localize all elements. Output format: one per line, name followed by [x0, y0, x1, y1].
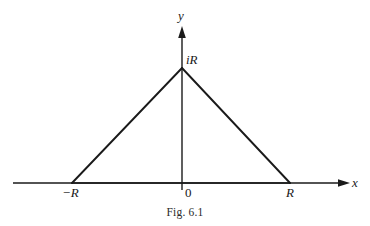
contour-left-side: [72, 68, 182, 183]
x-axis-arrowhead: [338, 179, 350, 187]
left-vertex-label-minus-R: −R: [62, 186, 79, 199]
origin-label: 0: [185, 186, 192, 199]
contour-right-side: [182, 68, 290, 183]
y-axis-arrowhead: [178, 26, 186, 38]
x-axis-label: x: [352, 176, 358, 189]
figure-container: y x iR −R 0 R Fig. 6.1: [0, 0, 370, 226]
y-axis-label: y: [178, 9, 184, 22]
figure-caption: Fig. 6.1: [0, 207, 370, 219]
right-vertex-label-R: R: [286, 186, 294, 199]
apex-label-iR: iR: [186, 53, 198, 66]
